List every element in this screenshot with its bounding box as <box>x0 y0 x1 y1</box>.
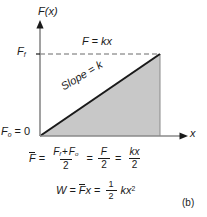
kx-over-two-denominator: 2 <box>129 158 141 170</box>
work-kx-squared-term: kx2 <box>121 185 136 196</box>
final-force-tick-label: Ff <box>17 46 26 58</box>
work-average-force-symbol: F <box>79 185 86 196</box>
numerator-initial-force-sub: o <box>75 150 78 157</box>
work-kx-term: kx <box>121 184 132 196</box>
force-over-two-fraction: F 2 <box>98 147 110 170</box>
work-symbol: W <box>56 185 66 196</box>
final-force-subscript: f <box>24 51 26 58</box>
force-over-two-numerator: F <box>98 147 110 158</box>
numerator-final-force-sub: f <box>59 150 61 157</box>
average-force-symbol: F <box>29 153 36 164</box>
panel-label: (b) <box>182 198 194 208</box>
average-force-equation: F = Ff+Fo 2 = F 2 = kx 2 <box>29 147 144 171</box>
initial-force-symbol: F <box>1 125 8 137</box>
kx-over-two-fraction: kx 2 <box>126 147 142 170</box>
work-equals-sign-2: = <box>94 185 100 196</box>
numerator-plus-sign: + <box>62 146 68 157</box>
equals-sign-3: = <box>115 153 121 164</box>
work-exponent: 2 <box>132 185 136 192</box>
average-force-fraction: Ff+Fo 2 <box>50 147 81 171</box>
work-displacement-symbol: x <box>86 185 92 196</box>
average-force-denominator: 2 <box>60 159 72 171</box>
force-law-annotation: F = kx <box>82 36 112 47</box>
y-axis-arrowhead <box>36 20 43 29</box>
force-over-two-denominator: 2 <box>98 158 110 170</box>
force-displacement-figure: F(x) x Ff Fo= 0 F = kx Slope = k F = Ff+… <box>0 0 207 217</box>
work-equation: W = Fx = 1 2 kx2 <box>56 180 135 201</box>
one-half-fraction: 1 2 <box>106 180 117 201</box>
work-equals-sign-1: = <box>69 185 75 196</box>
y-axis-label: F(x) <box>38 6 58 17</box>
equals-sign-2: = <box>86 153 92 164</box>
one-half-denominator: 2 <box>106 190 117 201</box>
initial-force-subscript: o <box>8 131 12 138</box>
initial-force-value: = 0 <box>15 125 31 137</box>
average-force-numerator: Ff+Fo <box>50 147 81 159</box>
x-axis-arrowhead <box>180 132 189 139</box>
equals-sign-1: = <box>39 153 45 164</box>
one-half-numerator: 1 <box>106 180 117 190</box>
x-axis-label: x <box>190 128 196 139</box>
initial-force-origin-label: Fo= 0 <box>1 126 30 138</box>
final-force-symbol: F <box>17 45 24 57</box>
kx-over-two-numerator: kx <box>126 147 142 158</box>
